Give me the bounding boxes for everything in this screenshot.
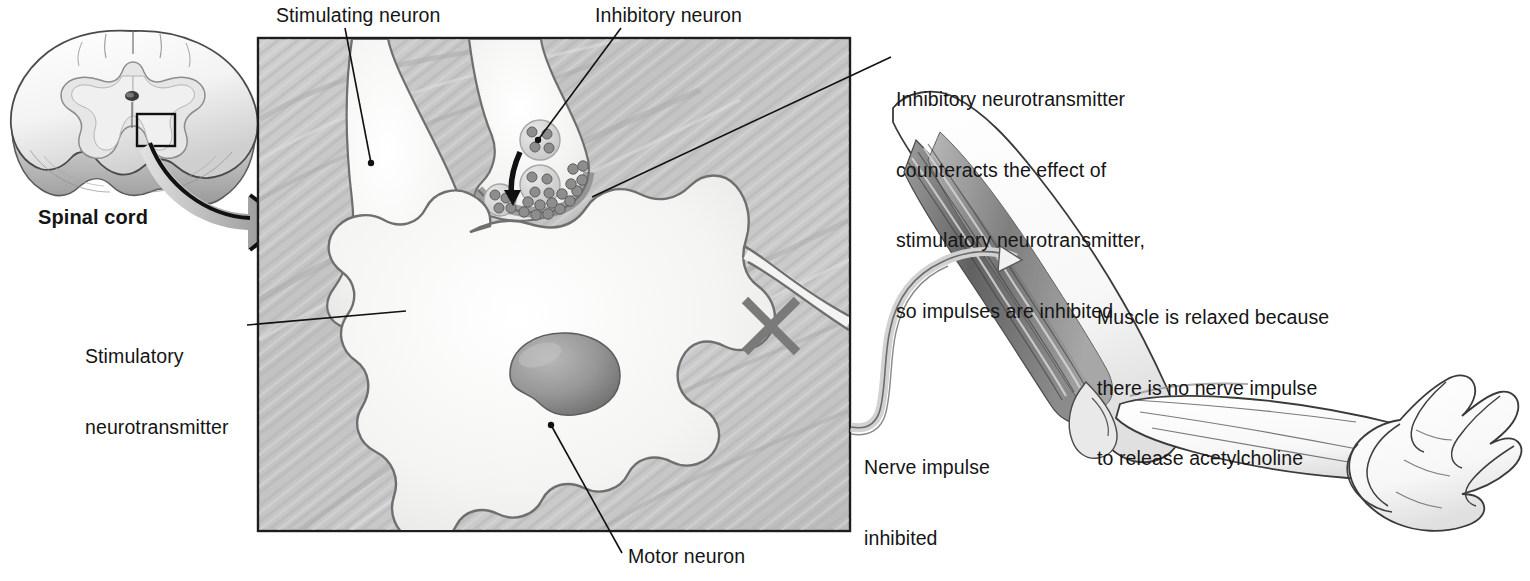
stimulatory-neurotransmitter-line-2: neurotransmitter: [85, 416, 229, 440]
muscle-relaxed-label: Muscle is relaxed because there is no ne…: [1097, 259, 1329, 518]
synapse-panel: [258, 38, 850, 544]
muscle-relaxed-line-2: there is no nerve impulse: [1097, 377, 1329, 401]
stimulatory-neurotransmitter-line-1: Stimulatory: [85, 345, 229, 369]
inhibitory-neuron-label: Inhibitory neuron: [595, 4, 742, 28]
inhibitory-neurotransmitter-line-2: counteracts the effect of: [896, 159, 1145, 183]
spinal-cord-label: Spinal cord: [38, 206, 148, 230]
synapse-inhibition-figure: Spinal cord Stimulating neuron Inhibitor…: [0, 0, 1530, 581]
stimulating-neuron-label: Stimulating neuron: [276, 4, 440, 28]
motor-neuron-label: Motor neuron: [628, 545, 745, 569]
inhibitory-neurotransmitter-line-3: stimulatory neurotransmitter,: [896, 229, 1145, 253]
muscle-relaxed-line-3: to release acetylcholine: [1097, 447, 1329, 471]
nerve-impulse-inhibited-line-2: inhibited: [864, 527, 990, 551]
muscle-relaxed-line-1: Muscle is relaxed because: [1097, 306, 1329, 330]
stimulatory-neurotransmitter-label: Stimulatory neurotransmitter: [85, 298, 229, 486]
spinal-cord-illustration: [11, 31, 258, 205]
inhibitory-neurotransmitter-line-1: Inhibitory neurotransmitter: [896, 88, 1145, 112]
nerve-impulse-inhibited-label: Nerve impulse inhibited: [864, 409, 990, 581]
nerve-impulse-inhibited-line-1: Nerve impulse: [864, 456, 990, 480]
